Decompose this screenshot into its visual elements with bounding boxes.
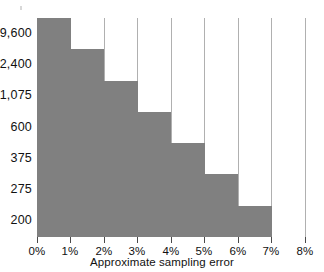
- bar-row: [37, 143, 305, 174]
- bar-200: [37, 206, 272, 237]
- gridline-8: [305, 18, 306, 237]
- plot-area: [37, 18, 305, 237]
- xtick-mark-6: [238, 237, 239, 243]
- xtick-mark-3: [137, 237, 138, 243]
- ytick-label-2400: 2,400: [0, 57, 32, 71]
- bar-2400: [37, 49, 104, 80]
- scan-artifact: [20, 6, 22, 10]
- bar-1075: [37, 81, 138, 112]
- xtick-mark-0: [37, 237, 38, 243]
- bar-series: [37, 18, 305, 237]
- ytick-label-200: 200: [11, 213, 32, 227]
- bar-row: [37, 49, 305, 80]
- bar-600: [37, 112, 171, 143]
- bar-275: [37, 174, 238, 205]
- xtick-mark-2: [104, 237, 105, 243]
- bar-row: [37, 18, 305, 49]
- bar-row: [37, 174, 305, 205]
- ytick-label-600: 600: [11, 120, 32, 134]
- ytick-label-375: 375: [11, 151, 32, 165]
- bar-9600: [37, 18, 71, 49]
- ytick-label-1075: 1,075: [0, 88, 32, 102]
- xtick-mark-5: [204, 237, 205, 243]
- ytick-label-9600: 9,600: [0, 26, 32, 40]
- sampling-error-bar-chart: 9,600 2,400 1,075 600 375 275 200 0% 1% …: [0, 0, 324, 272]
- bar-row: [37, 81, 305, 112]
- bar-375: [37, 143, 205, 174]
- ytick-label-275: 275: [11, 182, 32, 196]
- xtick-mark-8: [305, 237, 306, 243]
- xtick-mark-4: [171, 237, 172, 243]
- x-axis-title: Approximate sampling error: [0, 256, 324, 268]
- xtick-mark-1: [70, 237, 71, 243]
- xtick-mark-7: [271, 237, 272, 243]
- bar-row: [37, 206, 305, 237]
- bar-row: [37, 112, 305, 143]
